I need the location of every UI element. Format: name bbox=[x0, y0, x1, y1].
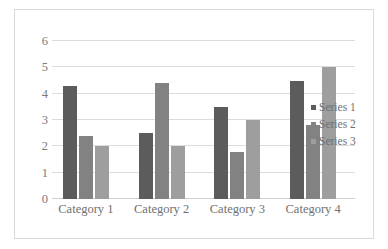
y-axis-tick-label: 2 bbox=[26, 140, 48, 153]
legend-swatch-icon bbox=[311, 139, 316, 144]
bar-cluster bbox=[63, 41, 109, 199]
bar[interactable] bbox=[290, 81, 304, 200]
legend-label: Series 1 bbox=[319, 102, 356, 114]
legend-item[interactable]: Series 3 bbox=[311, 133, 371, 150]
bar[interactable] bbox=[214, 107, 228, 199]
bar[interactable] bbox=[246, 120, 260, 199]
legend-label: Series 2 bbox=[319, 119, 356, 131]
y-axis-tick-label: 6 bbox=[26, 35, 48, 48]
chart-legend: Series 1Series 2Series 3 bbox=[311, 99, 371, 150]
x-axis: Category 1Category 2Category 3Category 4 bbox=[52, 203, 355, 225]
legend-label: Series 3 bbox=[319, 136, 356, 148]
y-axis-tick-label: 5 bbox=[26, 61, 48, 74]
x-axis-tick-label: Category 1 bbox=[58, 203, 113, 217]
bar[interactable] bbox=[171, 146, 185, 199]
x-axis-tick-label: Category 3 bbox=[210, 203, 265, 217]
x-axis-tick-label: Category 2 bbox=[134, 203, 189, 217]
bar[interactable] bbox=[230, 152, 244, 199]
bar[interactable] bbox=[79, 136, 93, 199]
bar-cluster bbox=[139, 41, 185, 199]
legend-item[interactable]: Series 1 bbox=[311, 99, 371, 116]
y-axis: 0123456 bbox=[22, 41, 48, 199]
legend-item[interactable]: Series 2 bbox=[311, 116, 371, 133]
x-axis-tick-label: Category 4 bbox=[286, 203, 341, 217]
bar-cluster bbox=[214, 41, 260, 199]
y-axis-tick-label: 0 bbox=[26, 193, 48, 206]
bar[interactable] bbox=[155, 83, 169, 199]
y-axis-tick-label: 1 bbox=[26, 166, 48, 179]
chart-container: 0123456 Category 1Category 2Category 3Ca… bbox=[0, 0, 388, 249]
bar[interactable] bbox=[63, 86, 77, 199]
legend-swatch-icon bbox=[311, 105, 316, 110]
bar[interactable] bbox=[139, 133, 153, 199]
bar[interactable] bbox=[95, 146, 109, 199]
bars-layer bbox=[52, 41, 355, 199]
plot-area bbox=[52, 41, 355, 199]
legend-swatch-icon bbox=[311, 122, 316, 127]
y-axis-tick-label: 3 bbox=[26, 114, 48, 127]
y-axis-tick-label: 4 bbox=[26, 87, 48, 100]
